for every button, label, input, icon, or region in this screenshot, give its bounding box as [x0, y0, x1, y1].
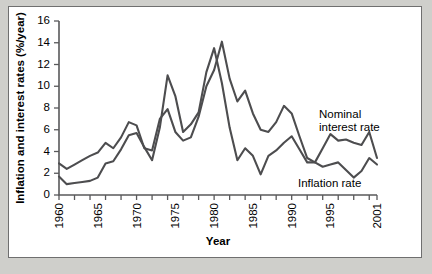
chart-canvas: 0246810121416 19601965197019751980198519…: [9, 7, 423, 259]
x-tick-label: 1995: [324, 203, 336, 229]
y-tick-label: 8: [44, 101, 50, 113]
y-tick-label: 14: [37, 36, 50, 48]
x-tick-label: 1970: [131, 203, 143, 229]
y-tick-label: 12: [37, 58, 50, 70]
x-axis-tick-labels: 196019651970197519801985199019952001: [53, 203, 383, 229]
y-tick-label: 4: [44, 145, 51, 157]
nominal-series-label-line1: Nominal: [319, 108, 361, 120]
nominal-series-label-line2: interest rate: [319, 121, 380, 133]
x-tick-label: 1960: [53, 203, 65, 229]
y-tick-label: 0: [44, 188, 50, 200]
x-tick-label: 2001: [371, 203, 383, 229]
x-tick-label: 1990: [286, 203, 298, 229]
y-tick-label: 6: [44, 123, 50, 135]
x-tick-label: 1980: [208, 203, 220, 229]
y-axis-title: Inflation and interest rates (%/year): [14, 12, 26, 204]
figure-panel: 0246810121416 19601965197019751980198519…: [8, 6, 422, 258]
x-tick-label: 1985: [247, 203, 259, 229]
y-tick-label: 10: [37, 79, 50, 91]
x-tick-label: 1975: [169, 203, 181, 229]
series-line-nominal-interest-rate: [59, 42, 377, 169]
y-axis-tick-labels: 0246810121416: [37, 14, 50, 200]
y-tick-label: 16: [37, 14, 50, 26]
line-chart-svg: 0246810121416 19601965197019751980198519…: [9, 7, 423, 259]
y-tick-label: 2: [44, 166, 50, 178]
x-tick-label: 1965: [92, 203, 104, 229]
x-axis-title: Year: [206, 235, 231, 247]
inflation-series-label: Inflation rate: [298, 177, 361, 189]
